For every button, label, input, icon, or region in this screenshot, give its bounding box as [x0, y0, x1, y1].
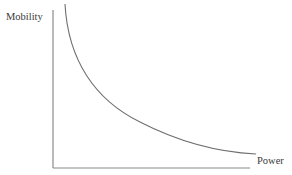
mobility-power-curve [65, 4, 256, 154]
y-axis-label: Mobility [6, 11, 43, 22]
mobility-power-diagram [0, 0, 292, 175]
x-axis-label: Power [257, 155, 284, 166]
